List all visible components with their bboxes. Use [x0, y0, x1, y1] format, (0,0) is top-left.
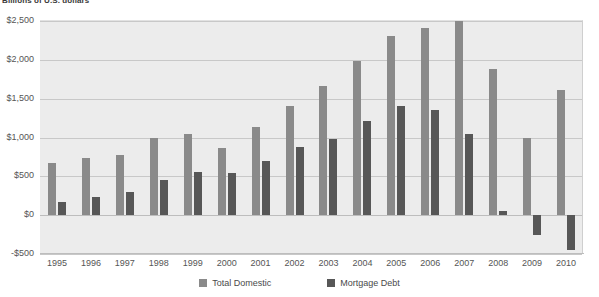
x-axis-tick-label: 2000	[217, 258, 237, 268]
y-axis-tick-label: $1,500	[0, 93, 34, 103]
bar-1998-total-domestic	[150, 138, 158, 215]
x-axis-tick-label: 1999	[183, 258, 203, 268]
bar-2003-mortgage-debt	[329, 139, 337, 215]
x-axis-tick-label: 2007	[454, 258, 474, 268]
gridline	[40, 215, 582, 216]
x-axis-tick-label: 2004	[352, 258, 372, 268]
bar-2001-total-domestic	[252, 127, 260, 216]
x-axis-tick-label: 2005	[386, 258, 406, 268]
bar-1995-total-domestic	[48, 163, 56, 215]
bar-2005-mortgage-debt	[397, 106, 405, 215]
bar-1998-mortgage-debt	[160, 180, 168, 215]
bar-2010-total-domestic	[557, 90, 565, 215]
bar-2007-total-domestic	[455, 21, 463, 215]
x-axis-tick-label: 2008	[488, 258, 508, 268]
gridline	[40, 99, 582, 100]
x-axis-line	[40, 253, 584, 254]
legend-label: Total Domestic	[212, 278, 271, 288]
x-axis-tick-label: 2006	[420, 258, 440, 268]
bar-2002-mortgage-debt	[296, 147, 304, 215]
x-axis-tick-label: 2001	[251, 258, 271, 268]
bar-2008-total-domestic	[489, 69, 497, 215]
bar-2010-mortgage-debt	[567, 215, 575, 250]
legend-item-total-domestic[interactable]: Total Domestic	[199, 278, 271, 288]
legend-swatch-icon	[327, 279, 335, 287]
bar-1997-mortgage-debt	[126, 192, 134, 215]
bar-1999-total-domestic	[184, 134, 192, 215]
bar-2004-mortgage-debt	[363, 121, 371, 215]
bar-2009-mortgage-debt	[533, 215, 541, 235]
x-axis-tick-label: 2002	[285, 258, 305, 268]
bar-2002-total-domestic	[286, 106, 294, 216]
bar-2006-total-domestic	[421, 28, 429, 215]
bar-1995-mortgage-debt	[58, 202, 66, 216]
legend-item-mortgage-debt[interactable]: Mortgage Debt	[327, 278, 400, 288]
gridline	[40, 60, 582, 61]
y-axis-tick-label: $500	[0, 170, 34, 180]
x-axis-tick-label: 1998	[149, 258, 169, 268]
y-axis-tick-label: $1,000	[0, 132, 34, 142]
bar-2009-total-domestic	[523, 138, 531, 216]
legend-swatch-icon	[199, 279, 207, 287]
legend-label: Mortgage Debt	[340, 278, 400, 288]
bar-2000-total-domestic	[218, 148, 226, 216]
bar-2004-total-domestic	[353, 61, 361, 215]
x-axis-tick-label: 2003	[318, 258, 338, 268]
bar-2003-total-domestic	[319, 86, 327, 215]
y-axis-tick-label: $2,500	[0, 15, 34, 25]
gridline	[40, 254, 582, 255]
x-axis-tick-label: 1997	[115, 258, 135, 268]
bar-2006-mortgage-debt	[431, 110, 439, 216]
x-axis-tick-label: 2009	[522, 258, 542, 268]
y-axis-tick-label: $2,000	[0, 54, 34, 64]
bar-1997-total-domestic	[116, 155, 124, 216]
x-axis-tick-label: 1995	[47, 258, 67, 268]
bar-2008-mortgage-debt	[499, 211, 507, 216]
x-axis-tick-label: 1996	[81, 258, 101, 268]
y-axis-tick-label: -$500	[0, 248, 34, 258]
gridline	[40, 138, 582, 139]
plot-area	[40, 20, 583, 253]
chart-title: Billions of U.S. dollars	[2, 0, 89, 5]
bar-chart: Billions of U.S. dollars $2,500$2,000$1,…	[0, 0, 599, 297]
bar-1996-total-domestic	[82, 158, 90, 215]
x-axis-tick-label: 2010	[556, 258, 576, 268]
chart-legend: Total DomesticMortgage Debt	[0, 278, 599, 288]
bar-2000-mortgage-debt	[228, 173, 236, 215]
bar-2001-mortgage-debt	[262, 161, 270, 215]
bar-1996-mortgage-debt	[92, 197, 100, 215]
gridline	[40, 21, 582, 22]
y-axis-tick-label: $0	[0, 209, 34, 219]
bar-2005-total-domestic	[387, 36, 395, 215]
bar-2007-mortgage-debt	[465, 134, 473, 216]
bar-1999-mortgage-debt	[194, 172, 202, 215]
